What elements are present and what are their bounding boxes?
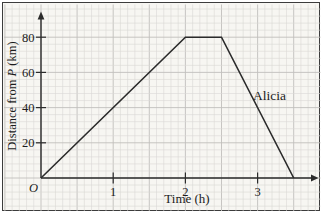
origin-label: O bbox=[26, 182, 41, 195]
y-tick-label: 80 bbox=[22, 31, 35, 45]
x-axis-title: Time (h) bbox=[137, 192, 237, 205]
y-axis-title: Distance from P (km) bbox=[6, 26, 22, 166]
chart-canvas: 12320406080 bbox=[0, 0, 325, 216]
x-tick-label: 1 bbox=[110, 185, 116, 199]
y-tick-label: 60 bbox=[22, 66, 35, 80]
x-axis-arrow-icon bbox=[311, 175, 319, 182]
y-axis-title-variable-p: P bbox=[5, 69, 19, 77]
distance-time-graph-figure: 12320406080 Distance from P (km) Time (h… bbox=[0, 0, 325, 216]
series-annotation-alicia: Alicia bbox=[253, 89, 286, 103]
y-tick-label: 40 bbox=[22, 101, 35, 115]
y-axis-title-post: (km) bbox=[5, 41, 19, 68]
y-axis-arrow-icon bbox=[38, 12, 45, 20]
y-axis-title-pre: Distance from bbox=[5, 76, 19, 150]
y-tick-label: 20 bbox=[22, 136, 35, 150]
x-tick-label: 3 bbox=[254, 185, 260, 199]
